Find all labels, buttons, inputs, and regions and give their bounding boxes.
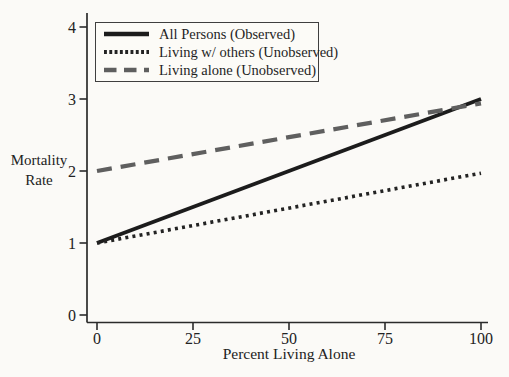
y-axis-title: Mortality Rate xyxy=(10,151,68,190)
legend-item: Living alone (Unobserved) xyxy=(103,61,312,79)
y-tick-label: 1 xyxy=(68,235,76,252)
y-axis-title-line2: Rate xyxy=(10,171,68,191)
legend-swatch-dashed-line xyxy=(103,65,150,75)
y-tick-label: 4 xyxy=(68,19,76,36)
x-tick-label: 75 xyxy=(377,330,393,347)
x-tick-label: 50 xyxy=(281,330,297,347)
y-tick-label: 3 xyxy=(68,91,76,108)
legend-item-label: All Persons (Observed) xyxy=(159,27,295,42)
y-tick-label: 2 xyxy=(68,163,76,180)
series-line-dotted xyxy=(97,173,481,243)
chart-legend: All Persons (Observed)Living w/ others (… xyxy=(95,22,319,82)
y-axis-title-line1: Mortality xyxy=(10,151,68,171)
series-line-solid xyxy=(97,99,481,243)
legend-item: Living w/ others (Unobserved) xyxy=(103,43,312,61)
legend-item: All Persons (Observed) xyxy=(103,25,312,43)
series-line-dashed xyxy=(97,103,481,171)
x-axis-title: Percent Living Alone xyxy=(97,345,481,363)
x-tick-label: 100 xyxy=(469,330,493,347)
y-tick-label: 0 xyxy=(68,307,76,324)
legend-swatch-dotted-line xyxy=(103,47,150,57)
legend-item-label: Living alone (Unobserved) xyxy=(159,63,316,78)
x-tick-label: 25 xyxy=(185,330,201,347)
x-tick-label: 0 xyxy=(93,330,101,347)
legend-item-label: Living w/ others (Unobserved) xyxy=(159,45,338,60)
chart-figure: 012340255075100 All Persons (Observed)Li… xyxy=(0,0,509,377)
legend-swatch-solid-line xyxy=(103,29,150,39)
